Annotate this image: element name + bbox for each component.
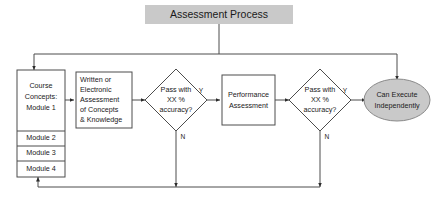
outcome-line-2: Independently (374, 101, 420, 110)
decision-one-yes-label: Y (199, 87, 204, 94)
course-concepts-node: Course Concepts: Module 1 Module 2 Modul… (17, 70, 65, 177)
performance-assessment-line-2: Assessment (229, 101, 268, 110)
written-assessment-line-1: Written or (80, 75, 112, 84)
decision-two-yes-label: Y (343, 87, 348, 94)
title-label: Assessment Process (170, 8, 268, 20)
flowchart-canvas: Assessment Process Course Concepts: Modu… (0, 0, 440, 202)
written-assessment-line-2: Electronic (80, 85, 112, 94)
course-concepts-line-3: Module 1 (26, 103, 56, 112)
decision-one-node: Pass with XX % accuracy? Y N (145, 69, 207, 140)
module-three-label: Module 3 (26, 148, 56, 157)
decision-one-line-3: accuracy? (160, 105, 193, 114)
outcome-line-1: Can Execute (376, 90, 417, 99)
decision-one-no-label: N (181, 133, 186, 140)
decision-two-node: Pass with XX % accuracy? Y N (289, 69, 351, 140)
written-assessment-node: Written or Electronic Assessment of Conc… (76, 72, 132, 128)
module-four-label: Module 4 (26, 164, 56, 173)
written-assessment-line-5: & Knowledge (80, 115, 122, 124)
assessment-process-diagram: Assessment Process Course Concepts: Modu… (0, 0, 440, 202)
course-concepts-line-1: Course (29, 81, 52, 90)
course-concepts-line-2: Concepts: (25, 92, 57, 101)
decision-two-line-2: XX % (311, 95, 330, 104)
module-two-label: Module 2 (26, 133, 56, 142)
written-assessment-line-4: of Concepts (80, 105, 119, 114)
title-node: Assessment Process (145, 5, 293, 24)
outcome-node: Can Execute Independently (364, 79, 430, 121)
performance-assessment-node: Performance Assessment (222, 75, 275, 125)
decision-two-line-3: accuracy? (304, 105, 337, 114)
written-assessment-line-3: Assessment (80, 95, 119, 104)
decision-two-line-1: Pass with (305, 85, 336, 94)
decision-one-line-1: Pass with (161, 85, 192, 94)
decision-one-line-2: XX % (167, 95, 186, 104)
decision-two-no-label: N (325, 133, 330, 140)
performance-assessment-line-1: Performance (228, 90, 269, 99)
